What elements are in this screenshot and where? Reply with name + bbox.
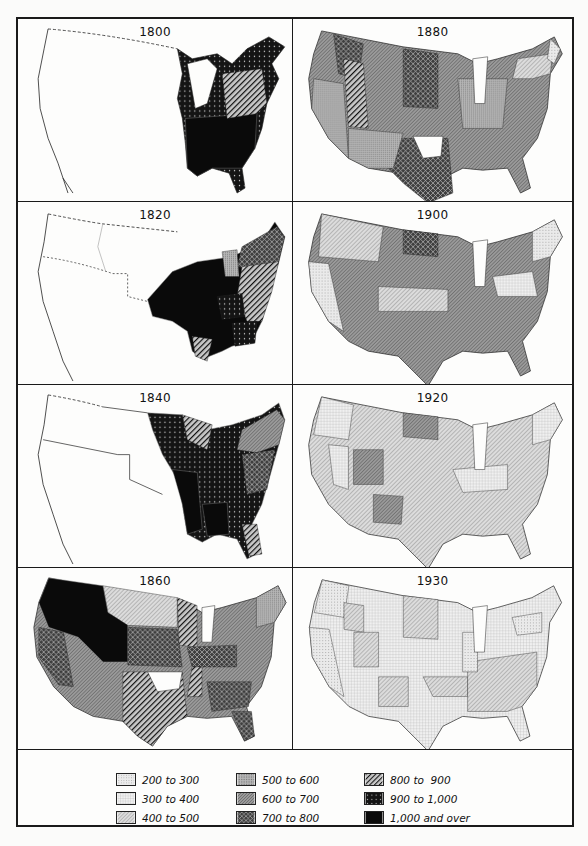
us-map-1840: [18, 385, 292, 567]
legend-item: 1,000 and over: [364, 808, 470, 827]
map-panel-1930: 1930: [293, 568, 572, 750]
legend-label: 700 to 800: [262, 812, 319, 824]
us-map-1800: [18, 19, 292, 201]
map-panel-1820: 1820: [18, 202, 293, 385]
swatch-800-900: [364, 773, 384, 786]
legend-item: 400 to 500: [116, 808, 199, 827]
legend-label: 200 to 300: [142, 774, 199, 786]
legend-label: 400 to 500: [142, 812, 199, 824]
legend-item: 900 to 1,000: [364, 789, 470, 808]
us-map-1820: [18, 202, 292, 384]
legend-item: 600 to 700: [236, 789, 319, 808]
us-map-1900: [293, 202, 572, 384]
swatch-900-1000: [364, 792, 384, 805]
swatch-600-700: [236, 792, 256, 805]
swatch-500-600: [236, 773, 256, 786]
us-map-1920: [293, 385, 572, 567]
legend-label: 300 to 400: [142, 793, 199, 805]
legend-label: 500 to 600: [262, 774, 319, 786]
swatch-700-800: [236, 811, 256, 824]
map-panel-1860: 1860: [18, 568, 293, 750]
legend-column-3: 800 to 900 900 to 1,000 1,000 and over: [364, 770, 470, 827]
us-map-1860: [18, 568, 292, 749]
legend-item: 800 to 900: [364, 770, 470, 789]
map-panel-1840: 1840: [18, 385, 293, 568]
swatch-200-300: [116, 773, 136, 786]
figure-frame: 1800 1880: [16, 17, 574, 827]
legend-label: 1,000 and over: [390, 812, 470, 824]
swatch-1000-over: [364, 811, 384, 824]
legend-item: 700 to 800: [236, 808, 319, 827]
map-panel-1920: 1920: [293, 385, 572, 568]
legend-column-1: 200 to 300 300 to 400 400 to 500: [116, 770, 199, 827]
legend-label: 600 to 700: [262, 793, 319, 805]
legend-column-2: 500 to 600 600 to 700 700 to 800: [236, 770, 319, 827]
legend-item: 300 to 400: [116, 789, 199, 808]
us-map-1880: [293, 19, 572, 201]
map-panel-1800: 1800: [18, 19, 293, 202]
us-map-1930: [293, 568, 572, 749]
legend-label: 900 to 1,000: [390, 793, 457, 805]
legend-item: 500 to 600: [236, 770, 319, 789]
legend: 200 to 300 300 to 400 400 to 500 500 to …: [18, 752, 572, 825]
map-panel-1900: 1900: [293, 202, 572, 385]
swatch-300-400: [116, 792, 136, 805]
swatch-400-500: [116, 811, 136, 824]
legend-label: 800 to 900: [390, 774, 451, 786]
map-panel-1880: 1880: [293, 19, 572, 202]
map-grid: 1800 1880: [18, 19, 572, 750]
legend-item: 200 to 300: [116, 770, 199, 789]
